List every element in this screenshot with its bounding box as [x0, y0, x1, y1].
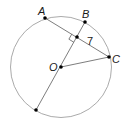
- point-c: [107, 55, 111, 59]
- circle-diagram: A B C O 7: [0, 0, 129, 121]
- label-c: C: [112, 53, 120, 65]
- label-o: O: [49, 61, 58, 73]
- radius-oc: [61, 57, 109, 67]
- measure-label-mc: 7: [87, 35, 93, 47]
- point-o: [59, 65, 63, 69]
- label-b: B: [82, 8, 89, 20]
- point-m: [75, 35, 79, 39]
- point-d: [34, 108, 38, 112]
- label-a: A: [37, 5, 45, 17]
- point-b: [83, 20, 87, 24]
